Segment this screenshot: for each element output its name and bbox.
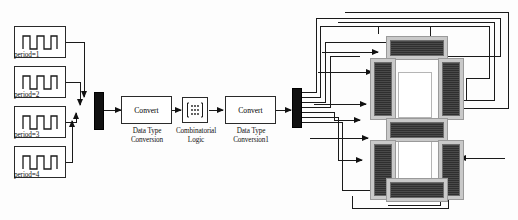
- combinatorial-logic-caption: Combinatorial Logic: [166, 127, 226, 145]
- wire-demux-seg-c: [302, 117, 362, 160]
- wire-pulse3-to-mux: [66, 113, 76, 122]
- scope-block-segment-f[interactable]: [370, 58, 396, 120]
- scope-screen: [374, 62, 392, 116]
- wire-pulse4-to-mux: [66, 121, 72, 162]
- wire-demux-seg-g: [302, 56, 360, 107]
- data-type-conversion1-body-label: Convert: [238, 106, 262, 115]
- scope-screen: [390, 182, 444, 198]
- scope-block-segment-g[interactable]: [386, 118, 448, 142]
- wire-demux-seg-e: [302, 112, 360, 120]
- data-type-conversion1-caption: Data Type Conversion1: [221, 127, 281, 145]
- pulse-generator-label-4: period=4: [14, 171, 84, 179]
- combinatorial-logic-block[interactable]: [182, 97, 208, 123]
- pulse-generator-label-1: period=1: [14, 51, 84, 59]
- demux-block[interactable]: [292, 88, 302, 128]
- scope-screen: [390, 40, 444, 56]
- scope-screen: [390, 122, 444, 138]
- data-type-conversion-body-label: Convert: [134, 106, 158, 115]
- simulink-diagram-canvas: period=1 period=2 period=3 period=4 Conv…: [0, 0, 518, 220]
- truth-table-icon: [186, 101, 204, 119]
- data-type-conversion-block[interactable]: Convert: [121, 96, 172, 124]
- scope-block-segment-d[interactable]: [386, 178, 448, 202]
- scope-block-segment-a[interactable]: [386, 36, 448, 60]
- pulse-generator-label-2: period=2: [14, 91, 84, 99]
- data-type-conversion1-block[interactable]: Convert: [225, 96, 276, 124]
- scope-screen: [442, 62, 460, 116]
- scope-block-segment-b[interactable]: [438, 58, 464, 120]
- wire-seg-a-frame: [378, 26, 430, 36]
- mux-block[interactable]: [94, 92, 104, 130]
- pulse-generator-label-3: period=3: [14, 131, 84, 139]
- digit1-open-area: [398, 72, 432, 118]
